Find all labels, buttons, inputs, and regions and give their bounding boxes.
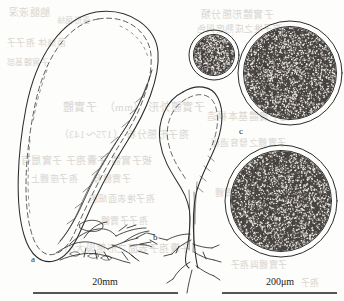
specimen-b-outline xyxy=(159,87,221,268)
specimen-a-outline xyxy=(18,11,158,261)
line-art-layer xyxy=(0,0,344,301)
spore-stipple-lower xyxy=(231,151,331,251)
panel-label-b: b xyxy=(153,232,158,242)
specimen-b-roots xyxy=(159,234,221,293)
spore-stipple-upper xyxy=(244,27,336,119)
specimen-a-folds xyxy=(58,70,152,244)
spore-stipple-small xyxy=(194,35,234,75)
specimen-a-rhizomorphs xyxy=(56,220,157,263)
scientific-figure: 脑髓液深菌絲体 孢子子子實體基部蛋形菌絲子實體外形 （mm） 子實體孢子形態分析… xyxy=(0,0,344,301)
panel-label-c: c xyxy=(239,126,243,136)
scale-bar-label-left: 20mm xyxy=(75,276,135,287)
scale-bar-label-right: 200μm xyxy=(250,276,310,287)
panel-label-a: a xyxy=(31,254,35,264)
